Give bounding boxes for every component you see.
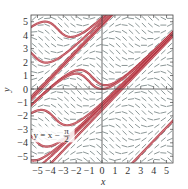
svg-text:2: 2 [23,57,28,68]
svg-text:0: 0 [23,84,28,95]
svg-text:3: 3 [23,43,28,54]
svg-text:5: 5 [164,165,169,176]
svg-text:−1: −1 [17,97,28,108]
svg-text:1: 1 [112,165,117,176]
y-axis-title: y [1,87,12,93]
annotation-line-label: y = x − π2 [33,126,75,144]
svg-text:5: 5 [23,16,28,27]
svg-text:−3: −3 [17,124,28,135]
slope-field-chart: −5−4−3−2−1012345−5−4−3−2−1012345 x y y =… [0,0,188,189]
svg-text:2: 2 [64,134,69,144]
svg-text:1: 1 [23,70,28,81]
svg-text:0: 0 [100,165,105,176]
svg-text:−3: −3 [58,165,69,176]
svg-text:−4: −4 [17,137,28,148]
svg-text:−2: −2 [71,165,82,176]
svg-text:−5: −5 [32,165,43,176]
svg-text:3: 3 [138,165,143,176]
svg-text:4: 4 [151,165,156,176]
svg-text:2: 2 [125,165,130,176]
svg-text:4: 4 [23,30,28,41]
svg-text:−5: −5 [17,151,28,162]
svg-text:−4: −4 [45,165,56,176]
svg-text:y = x −: y = x − [34,130,60,140]
svg-text:−1: −1 [84,165,95,176]
svg-text:−2: −2 [17,110,28,121]
x-axis-title: x [100,176,106,187]
